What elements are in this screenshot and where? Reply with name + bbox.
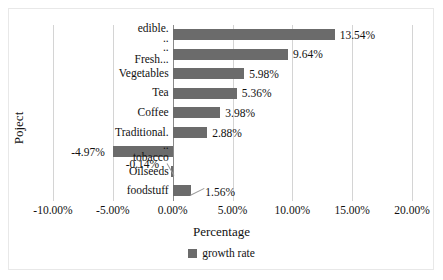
bar-value-label: 2.88%: [212, 128, 242, 139]
bar-row: [53, 162, 412, 182]
category-label: foodstuff: [127, 185, 169, 197]
bar-row: [53, 84, 412, 104]
x-tick-label: 5.00%: [218, 203, 248, 217]
category-label: Fresh...: [134, 54, 168, 66]
bar-value-label: 3.98%: [225, 108, 255, 119]
bar-row: [53, 64, 412, 84]
gridline: [412, 25, 413, 201]
x-tick-label: 0.00%: [158, 203, 188, 217]
x-tick-label: 10.00%: [275, 203, 310, 217]
legend-label: growth rate: [202, 247, 255, 259]
category-label: Traditional.: [115, 127, 169, 139]
x-tick-label: -10.00%: [33, 203, 72, 217]
bar[interactable]: [173, 29, 335, 40]
bar-row: [53, 142, 412, 162]
growth-rate-swatch: [188, 249, 197, 258]
category-label: ..: [163, 43, 169, 51]
chart-legend: growth rate: [0, 247, 443, 259]
bar-value-label: 5.98%: [249, 69, 279, 80]
x-tick-label: -5.00%: [96, 203, 130, 217]
bar[interactable]: [173, 49, 288, 60]
x-axis-tick-labels: -10.00%-5.00%0.00%5.00%10.00%15.00%20.00…: [0, 203, 443, 219]
y-axis-title: Poject: [11, 93, 27, 163]
bar-value-label: -4.97%: [71, 147, 105, 158]
bar[interactable]: [173, 68, 245, 79]
category-label: ..: [163, 141, 169, 149]
x-tick-label: 15.00%: [334, 203, 369, 217]
x-tick-label: 20.00%: [394, 203, 429, 217]
bar-value-label: 1.56%: [205, 187, 235, 198]
category-label: Vegetables: [119, 68, 169, 80]
category-label: tobacco: [133, 152, 169, 164]
bar[interactable]: [173, 88, 237, 99]
category-label: Coffee: [138, 107, 169, 119]
bar[interactable]: [173, 185, 192, 196]
x-axis-title: Percentage: [0, 224, 443, 240]
bar-chart: Poject -10.00%-5.00%0.00%5.00%10.00%15.0…: [0, 0, 443, 280]
bar-row: [53, 45, 412, 65]
category-label: Oilseeds: [129, 166, 169, 178]
category-label: Tea: [152, 87, 168, 99]
bar[interactable]: [173, 107, 221, 118]
bar-value-label: 13.54%: [340, 30, 375, 41]
bar-value-label: 5.36%: [242, 88, 272, 99]
bar[interactable]: [173, 127, 207, 138]
bar-value-label: 9.64%: [293, 49, 323, 60]
